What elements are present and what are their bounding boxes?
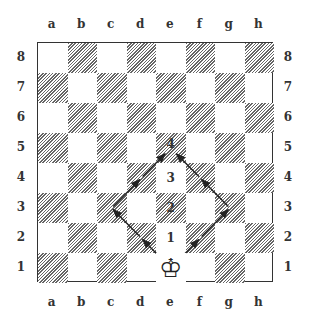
rank-label-2: 2 xyxy=(13,230,29,244)
file-label-f: f xyxy=(191,295,207,309)
left-path-arrow xyxy=(113,179,140,206)
path-arrows xyxy=(38,43,274,283)
right-path-arrow xyxy=(202,209,229,236)
rank-label-6: 6 xyxy=(280,110,296,124)
file-label-a: a xyxy=(44,295,60,309)
file-label-a: a xyxy=(44,17,60,31)
file-label-g: g xyxy=(221,295,237,309)
rank-label-7: 7 xyxy=(13,80,29,94)
rank-label-3: 3 xyxy=(280,200,296,214)
white-king-icon: ♔ xyxy=(156,253,186,283)
rank-label-1: 1 xyxy=(280,260,296,274)
rank-label-5: 5 xyxy=(280,140,296,154)
file-label-e: e xyxy=(162,295,178,309)
file-label-c: c xyxy=(103,295,119,309)
chessboard: 1234 ♔ xyxy=(37,42,273,282)
file-label-c: c xyxy=(103,17,119,31)
right-path-arrow xyxy=(176,154,198,177)
file-label-e: e xyxy=(162,17,178,31)
rank-label-2: 2 xyxy=(280,230,296,244)
rank-label-5: 5 xyxy=(13,140,29,154)
left-path-arrow xyxy=(113,209,140,236)
file-label-g: g xyxy=(221,17,237,31)
rank-label-1: 1 xyxy=(13,260,29,274)
file-label-b: b xyxy=(73,17,89,31)
file-label-h: h xyxy=(250,295,266,309)
rank-label-7: 7 xyxy=(280,80,296,94)
file-label-b: b xyxy=(73,295,89,309)
file-label-d: d xyxy=(132,17,148,31)
rank-label-8: 8 xyxy=(13,50,29,64)
file-label-f: f xyxy=(191,17,207,31)
left-path-arrow xyxy=(143,154,165,177)
rank-label-6: 6 xyxy=(13,110,29,124)
rank-label-8: 8 xyxy=(280,50,296,64)
file-label-d: d xyxy=(132,295,148,309)
rank-label-4: 4 xyxy=(13,170,29,184)
right-path-arrow xyxy=(202,179,229,206)
rank-label-4: 4 xyxy=(280,170,296,184)
file-label-h: h xyxy=(250,17,266,31)
rank-label-3: 3 xyxy=(13,200,29,214)
